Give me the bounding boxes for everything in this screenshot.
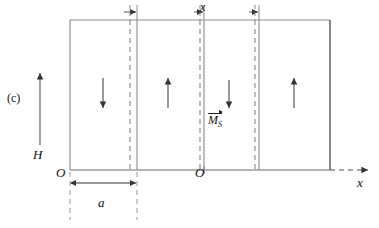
domain-wall-3: [255, 20, 259, 170]
domain-wall-2: [200, 20, 204, 170]
x-axis-label: x: [357, 176, 363, 189]
magnetization-symbol: M: [208, 113, 218, 127]
wall-shift-marker-right: [249, 5, 259, 20]
magnetization-subscript: S: [218, 120, 222, 129]
magnetization-vector-label: MS: [208, 113, 222, 129]
panel-label: (c): [7, 92, 20, 104]
origin-label-center: O: [195, 166, 204, 179]
domain-wall-1: [130, 20, 137, 170]
vector-arrow-icon: [219, 110, 223, 114]
applied-field-label: H: [33, 148, 42, 161]
wall-shift-label: x: [200, 1, 205, 13]
domain-wall-diagram: [0, 0, 379, 228]
origin-label-left: O: [56, 166, 65, 179]
wall-shift-marker-left: [124, 5, 137, 20]
domain-width-label: a: [98, 196, 105, 209]
